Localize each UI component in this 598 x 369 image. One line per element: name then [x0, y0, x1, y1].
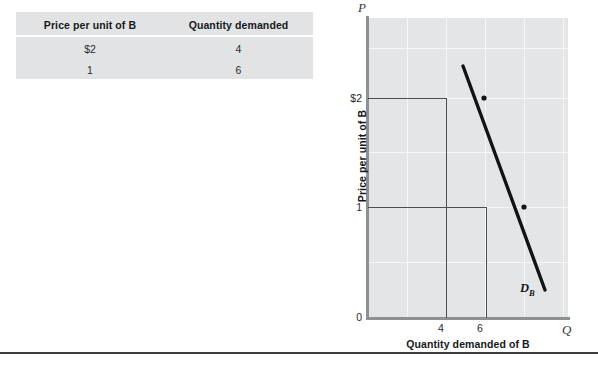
table-header-cell-quantity: Quantity demanded	[164, 15, 313, 33]
table-header-label-quantity: Quantity demanded	[189, 19, 289, 31]
table-row: 1 6	[16, 58, 313, 79]
bottom-divider-rule	[0, 352, 598, 354]
curve-label-subscript: B	[529, 288, 535, 298]
demand-curve-label: DB	[520, 281, 535, 298]
table-cell-quantity: 6	[164, 60, 313, 78]
table-cell-value-price: $2	[84, 43, 96, 55]
table-header-cell-price: Price per unit of B	[16, 15, 164, 33]
x-tick-label-6: 6	[473, 322, 487, 334]
y-axis-symbol: P	[358, 0, 366, 16]
table-cell-price: $2	[16, 39, 164, 57]
data-point-4-2	[481, 95, 486, 100]
x-tick-label-4: 4	[434, 322, 448, 334]
y-axis-title: Price per unit of B	[356, 76, 368, 236]
x-axis-symbol: Q	[562, 322, 571, 338]
demand-curve-chart: P Q $2 1 0 4 6 DB Price per unit of B Qu…	[330, 0, 598, 355]
table-cell-value-quantity: 6	[236, 64, 242, 76]
table-cell-value-quantity: 4	[236, 43, 242, 55]
table-cell-quantity: 4	[164, 39, 313, 57]
y-tick-label-0: 0	[338, 311, 362, 323]
data-point-6-1	[521, 204, 526, 209]
x-axis-title: Quantity demanded of B	[360, 338, 576, 350]
curve-label-letter: D	[520, 281, 529, 295]
table-header-label-price: Price per unit of B	[44, 19, 136, 31]
table-cell-price: 1	[16, 60, 164, 78]
demand-schedule-table: Price per unit of B Quantity demanded $2…	[16, 12, 313, 79]
demand-curve-line	[368, 18, 568, 318]
table-header-row: Price per unit of B Quantity demanded	[16, 12, 313, 37]
table-row: $2 4	[16, 37, 313, 58]
table-cell-value-price: 1	[87, 64, 93, 76]
